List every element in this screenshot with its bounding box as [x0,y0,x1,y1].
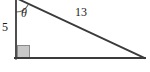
angle-theta-label: θ [21,7,27,19]
right-triangle-figure: 5 13 θ [0,0,150,72]
vertical-leg-label: 5 [2,21,8,33]
right-angle-marker [18,46,30,58]
hypotenuse-label: 13 [75,6,87,18]
